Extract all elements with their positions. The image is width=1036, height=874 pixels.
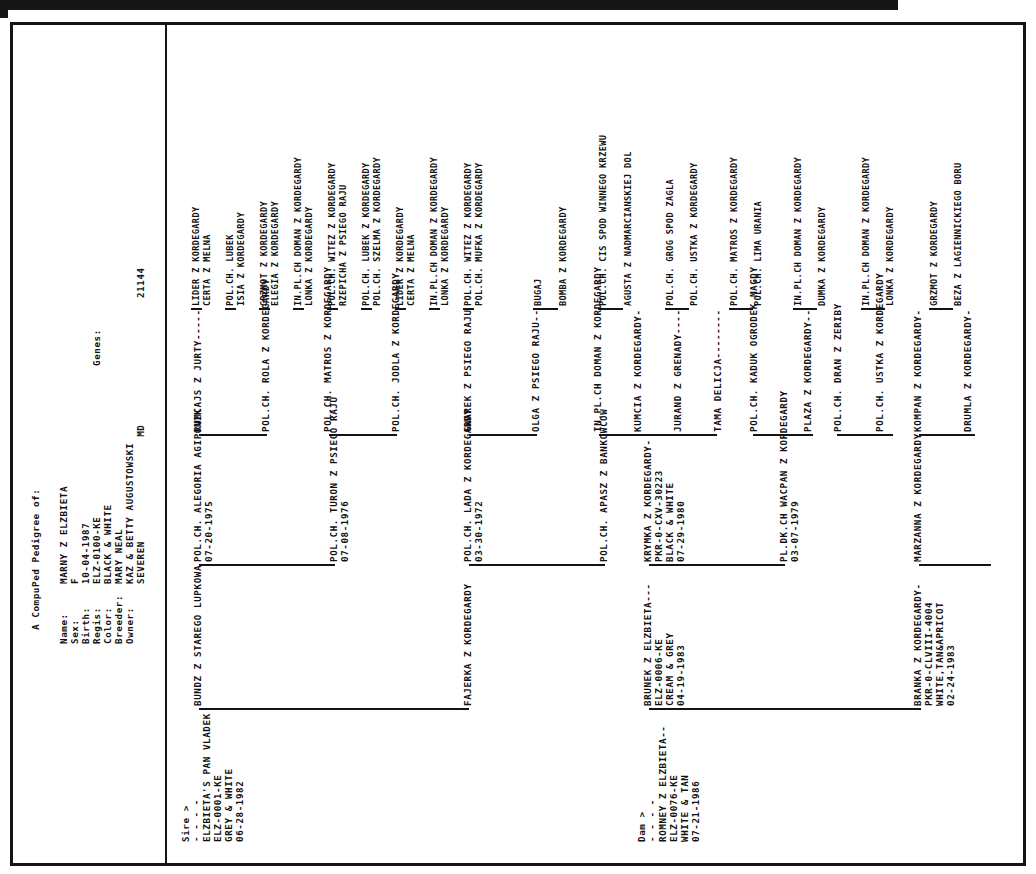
field-label-color: Color: bbox=[103, 607, 114, 644]
gen4-4-name: GWAREK Z PSIEGO RAJU bbox=[463, 309, 474, 432]
gen5-1-name: CERTA Z MELNA bbox=[202, 234, 213, 306]
gen5-3-name: ISIA Z KORDEGARDY bbox=[236, 212, 247, 306]
field-value-owner: KAZ & BETTY AUGUSTOWSKI bbox=[125, 443, 136, 584]
page-border: A CompuPed Pedigree of: Name: MARNY Z EL… bbox=[10, 22, 1026, 866]
gen5-2-name: POL.CH. LUBEK bbox=[225, 234, 236, 306]
gen5-bracket-1 bbox=[225, 308, 236, 310]
field-label-sex: Sex: bbox=[70, 619, 81, 644]
gen3-4-name: KRYMKA Z KORDEGARDY- bbox=[643, 439, 654, 562]
gen2-2-regis: ELZ-0006-KE bbox=[654, 639, 665, 706]
gen4-12-name: POL.CH. DRAN Z ZERIBY bbox=[833, 303, 844, 432]
dam-regis: ELZ-0076-KE bbox=[669, 775, 680, 842]
gen2-3-birth: 02-24-1983 bbox=[946, 645, 957, 706]
gen2-3-regis: PKR-0-CLVIII-4004 bbox=[924, 602, 935, 706]
gen5-bracket-9 bbox=[533, 308, 558, 310]
scanned-pedigree-page: A CompuPed Pedigree of: Name: MARNY Z EL… bbox=[0, 0, 1036, 874]
gen5-bracket-13 bbox=[793, 308, 817, 310]
gen5-21-name: AGUSTA Z NADMARCIANSKIEJ DOL bbox=[623, 151, 634, 306]
gen5-bracket-3 bbox=[293, 308, 304, 310]
gen5-8-name: POL.CH. WITEZ Z KORDEGARDY bbox=[327, 162, 338, 306]
genes-value: 21144 bbox=[136, 267, 147, 298]
gen5-bracket-8 bbox=[463, 308, 474, 310]
gen5-25-name: POL.CH. LIMA URANIA bbox=[753, 201, 764, 306]
gen4-9-name: TAMA DELICJA-------- bbox=[713, 309, 724, 432]
connector-gen3-6-gen4 bbox=[919, 434, 975, 436]
field-label-owner: Owner: bbox=[125, 607, 136, 644]
document-title: A CompuPed Pedigree of: bbox=[31, 489, 42, 630]
gen5-15-name: LONKA Z KORDEGARDY bbox=[440, 207, 451, 306]
gen5-13-name: CERTA Z MELNA bbox=[406, 234, 417, 306]
gen5-16-name: POL.CH. WITEZ Z KORDEGARDY bbox=[463, 162, 474, 306]
connector-gen3-3b-gen4 bbox=[665, 434, 717, 436]
field-value-regis: ELZ-0100-KE bbox=[92, 517, 103, 584]
gen5-bracket-4 bbox=[327, 308, 338, 310]
gen3-1-birth: 07-08-1976 bbox=[340, 501, 351, 562]
gen3-6-name: MARZANNA Z KORDEGARDY bbox=[913, 433, 924, 562]
gen5-17-name: POL.CH. MUFKA Z KORDEGARDY bbox=[474, 162, 485, 306]
gen5-bracket-6 bbox=[395, 308, 406, 310]
connector-gen3-4-gen4 bbox=[753, 434, 813, 436]
gen5-11-name: POL.CH. SZELMA Z KORDEGARDY bbox=[372, 157, 383, 306]
connector-gen3-5-gen4 bbox=[837, 434, 893, 436]
gen4-11-name: PLAZA Z KORDEGARDY-- bbox=[803, 309, 814, 432]
gen5-bracket-10 bbox=[598, 308, 623, 310]
sire-birth: 06-28-1982 bbox=[235, 781, 246, 842]
gen5-12-name: LIDER Z KORDEGARDY bbox=[395, 207, 406, 306]
gen3-4-regis: PKR-0-CXV-30223 bbox=[654, 470, 665, 562]
connector-dam-gen2 bbox=[649, 708, 921, 710]
gen4-5-name: OLGA Z PSIEGO RAJU-- bbox=[531, 309, 542, 432]
gen5-24-name: POL.CH. MATROS Z KORDEGARDY bbox=[729, 157, 740, 306]
gen5-30-name: GRZMOT Z KORDEGARDY bbox=[929, 201, 940, 306]
connector-gen3-1-gen4 bbox=[329, 434, 397, 436]
gen5-18-name: BUGAJ bbox=[533, 278, 544, 306]
gen5-29-name: LONKA Z KORDEGARDY bbox=[885, 207, 896, 306]
rotated-content-wrapper: A CompuPed Pedigree of: Name: MARNY Z EL… bbox=[13, 22, 1023, 866]
gen5-0-name: LIDER Z KORDEGARDY bbox=[191, 207, 202, 306]
gen5-28-name: IN.PL.CH DOMAN Z KORDEGARDY bbox=[861, 157, 872, 306]
field-value-sex: F bbox=[70, 578, 81, 584]
gen4-13-name: POL.CH. USTKA Z KORDEGARDY bbox=[875, 273, 886, 432]
gen5-14-name: IN.PL.CH DOMAN Z KORDEGARDY bbox=[429, 157, 440, 306]
field-label-birth: Birth: bbox=[81, 607, 92, 644]
gen2-3-color: WHITE,TAN&APRICOT bbox=[935, 602, 946, 706]
gen4-0-name: RUMCAJS Z JURTY----- bbox=[193, 309, 204, 432]
gen3-4-color: BLACK & WHITE bbox=[665, 482, 676, 562]
sire-color: GREY & WHITE bbox=[224, 768, 235, 842]
gen5-31-name: BEZA Z LAGIENNICKIEGO BORU bbox=[953, 162, 964, 306]
connector-gen2-3-gen3 bbox=[919, 564, 991, 566]
gen5-20-name: POL.CH. CIS SPOD WINNEGO KRZEWU bbox=[598, 135, 609, 306]
gen5-26-name: IN.PL.CH DOMAN Z KORDEGARDY bbox=[793, 157, 804, 306]
gen5-bracket-11 bbox=[665, 308, 689, 310]
sire-name: ELZBIETA'S PAN VLADEK bbox=[202, 713, 213, 842]
gen3-5-birth: 03-07-1979 bbox=[790, 501, 801, 562]
gen5-bracket-12 bbox=[729, 308, 753, 310]
gen5-bracket-5 bbox=[361, 308, 372, 310]
gen5-22-name: POL.CH. GROG SPOD ZAGLA bbox=[665, 179, 676, 306]
gen5-bracket-14 bbox=[861, 308, 885, 310]
field-value-color: BLACK & WHITE bbox=[103, 504, 114, 584]
gen5-6-name: IN.PL.CH DOMAN Z KORDEGARDY bbox=[293, 157, 304, 306]
gen5-bracket-0 bbox=[191, 308, 202, 310]
gen5-10-name: POL.CH. LUBEK Z KORDEGARDY bbox=[361, 162, 372, 306]
sire-regis: ELZ-0001-KE bbox=[213, 775, 224, 842]
field-value-birth: 10-04-1987 bbox=[81, 523, 92, 584]
gen5-5-name: ELEGIA Z KORDEGARDY bbox=[270, 201, 281, 306]
field-label-breeder: Breeder: bbox=[114, 595, 125, 644]
header-separator-rule bbox=[165, 22, 167, 866]
scan-edge-artifact-corner bbox=[0, 0, 8, 18]
gen4-14-name: KOMPAN Z KORDEGARDY- bbox=[913, 309, 924, 432]
gen2-2-name: BRUNEK Z ELZBIETA--- bbox=[643, 583, 654, 706]
gen5-9-name: RZEPICHA Z PSIEGO RAJU bbox=[338, 184, 349, 306]
scan-edge-artifact-top bbox=[0, 0, 898, 10]
gen4-15-name: DRUMLA Z KORDEGARDY- bbox=[963, 309, 974, 432]
connector-gen3-3-gen4 bbox=[599, 434, 667, 436]
gen3-2-birth: 03-30-1972 bbox=[474, 501, 485, 562]
gen3-0-birth: 07-20-1975 bbox=[204, 501, 215, 562]
connector-gen3-0-gen4 bbox=[199, 434, 267, 436]
dam-name: ROMNEY Z ELZBIETA-- bbox=[658, 726, 669, 843]
dam-dashes: - - - - bbox=[647, 799, 658, 842]
gen5-bracket-2 bbox=[259, 308, 270, 310]
gen5-23-name: POL.CH. USTKA Z KORDEGARDY bbox=[689, 162, 700, 306]
field-value-name: MARNY Z ELZBIETA bbox=[59, 486, 70, 584]
pedigree-canvas: A CompuPed Pedigree of: Name: MARNY Z EL… bbox=[13, 22, 1023, 866]
